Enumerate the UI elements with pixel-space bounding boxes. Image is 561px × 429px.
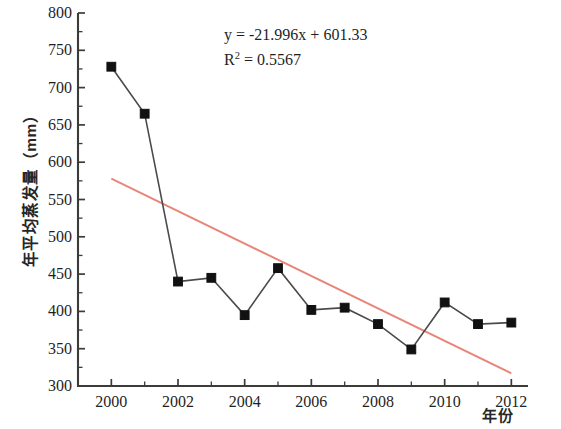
data-point-marker (174, 277, 183, 286)
data-point-marker (307, 306, 316, 315)
y-axis-ticks (78, 13, 85, 386)
data-point-marker (374, 320, 383, 329)
data-point-marker (140, 109, 149, 118)
data-point-marker (207, 273, 216, 282)
data-markers (107, 62, 516, 354)
evaporation-trend-chart: 年平均蒸发量（mm） 年份 y = -21.996x + 601.33 R2 =… (0, 0, 561, 429)
plot-area (0, 0, 561, 429)
data-point-marker (507, 318, 516, 327)
data-point-marker (407, 345, 416, 354)
data-point-marker (240, 311, 249, 320)
data-point-marker (107, 62, 116, 71)
trendline (111, 179, 511, 374)
data-point-marker (440, 298, 449, 307)
data-point-marker (474, 320, 483, 329)
data-point-marker (340, 303, 349, 312)
axis-lines (78, 13, 528, 386)
data-point-marker (274, 264, 283, 273)
